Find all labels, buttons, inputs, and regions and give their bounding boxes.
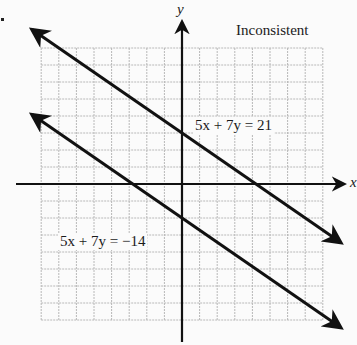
coordinate-plane — [0, 0, 357, 345]
equation-line-1 — [32, 115, 340, 328]
equation-line-0 — [32, 30, 340, 243]
equation-lines — [32, 30, 340, 328]
graph-figure: y x Inconsistent 5x + 7y = 21 5x + 7y = … — [0, 0, 357, 345]
x-axis-label: x — [350, 174, 357, 191]
axes — [16, 22, 344, 342]
graph-title: Inconsistent — [236, 22, 309, 39]
equation-label-upper: 5x + 7y = 21 — [193, 117, 274, 134]
stray-mark — [1, 18, 4, 21]
y-axis-label: y — [177, 1, 184, 18]
equation-label-lower: 5x + 7y = −14 — [58, 233, 147, 250]
